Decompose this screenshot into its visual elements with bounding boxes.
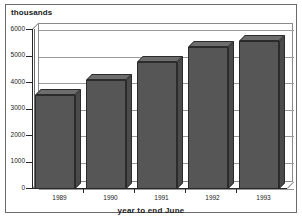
bar-front-face	[239, 41, 279, 189]
x-axis-tick-label: 1991	[154, 195, 168, 202]
bar-front-face	[86, 80, 126, 189]
bar-1993[interactable]	[239, 35, 285, 189]
bar-side-face	[228, 41, 234, 189]
chart-screenshot: thousands 0100020003000400050006000 1989…	[0, 0, 302, 223]
x-axis-line	[32, 188, 287, 189]
x-axis-tick-label: 1989	[52, 195, 66, 202]
y-axis-tick-label: 6000	[11, 26, 25, 33]
y-axis-tick-label: 4000	[11, 79, 25, 86]
y-axis-tick-mark	[26, 162, 33, 163]
y-axis-tick-mark	[26, 82, 33, 83]
x-axis-tick-mark	[83, 189, 84, 193]
x-axis-tick-label: 1993	[256, 195, 270, 202]
y-axis-tick-mark	[26, 56, 33, 57]
y-axis-tick-mark	[26, 29, 33, 30]
bar-1989[interactable]	[35, 89, 81, 189]
x-axis-tick-mark	[236, 189, 237, 193]
bar-front-face	[35, 95, 75, 189]
y-axis-tick-mark	[26, 109, 33, 110]
y-axis-tick-mark	[26, 188, 33, 189]
bar-side-face	[126, 74, 132, 189]
bar-1991[interactable]	[137, 56, 183, 189]
bar-side-face	[177, 56, 183, 189]
x-axis-tick-label: 1992	[205, 195, 219, 202]
x-axis-tick-mark	[134, 189, 135, 193]
y-axis-tick-label: 3000	[11, 105, 25, 112]
bar-side-face	[279, 35, 285, 189]
y-axis-line-inner	[34, 29, 35, 189]
y-axis-tick-labels: 0100020003000400050006000	[0, 0, 25, 223]
bar-front-face	[188, 47, 228, 189]
y-axis-tick-label: 1000	[11, 158, 25, 165]
x-axis-tick-mark	[185, 189, 186, 193]
y-axis-tick-label: 2000	[11, 132, 25, 139]
x-axis-tick-label: 1990	[103, 195, 117, 202]
gridline	[39, 189, 294, 190]
y-axis-tick-mark	[26, 135, 33, 136]
bars-layer	[32, 29, 293, 189]
bar-1992[interactable]	[188, 41, 234, 189]
bar-side-face	[75, 89, 81, 189]
bar-1990[interactable]	[86, 74, 132, 189]
x-axis-title: year to end June	[0, 206, 302, 215]
bar-front-face	[137, 62, 177, 189]
y-axis-tick-label: 5000	[11, 52, 25, 59]
y-axis-tick-label: 0	[21, 185, 25, 192]
